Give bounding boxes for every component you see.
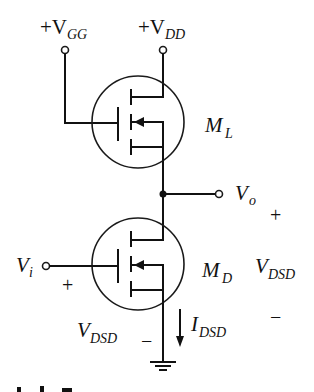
md-main: M (201, 258, 221, 282)
vdd-sub: DD (164, 27, 185, 42)
source-body-wire (133, 265, 163, 290)
terminal-circle-icon (62, 47, 69, 54)
circuit-diagram: +V GG +V DD M L V o + V DSD − (0, 0, 314, 392)
terminal-circle-icon (43, 263, 50, 270)
vgg-sub: GG (67, 27, 87, 42)
vdsd-left-minus: − (141, 330, 152, 352)
vo-main: V (235, 181, 250, 205)
ml-sub: L (224, 126, 233, 141)
vdsd-right-minus: − (270, 306, 281, 328)
arrow-icon (134, 260, 144, 270)
vdd-prefix: +V (138, 15, 165, 39)
ground-icon (151, 362, 175, 370)
idsd-sub: DSD (198, 325, 226, 340)
vgg-prefix: +V (40, 15, 67, 39)
vdsd-right-plus: + (270, 204, 281, 226)
vdd-terminal: +V DD (138, 15, 185, 54)
arrow-icon (134, 117, 144, 127)
ml-main: M (204, 113, 224, 137)
vdsd-left-plus: + (62, 274, 73, 296)
vdsd-left-sub: DSD (89, 331, 117, 346)
vi-sub: i (29, 265, 33, 280)
terminal-circle-icon (160, 47, 167, 54)
vgg-terminal: +V GG (40, 15, 87, 54)
current-arrow-icon (176, 310, 184, 347)
vo-sub: o (249, 193, 256, 208)
terminal-circle-icon (216, 191, 223, 198)
vdsd-right-sub: DSD (267, 267, 295, 282)
vgg-gate-wire (65, 54, 118, 123)
source-body-wire (133, 122, 163, 147)
idsd-main: I (190, 312, 199, 336)
md-sub: D (221, 271, 232, 286)
cropped-caption-fragment (17, 386, 72, 392)
